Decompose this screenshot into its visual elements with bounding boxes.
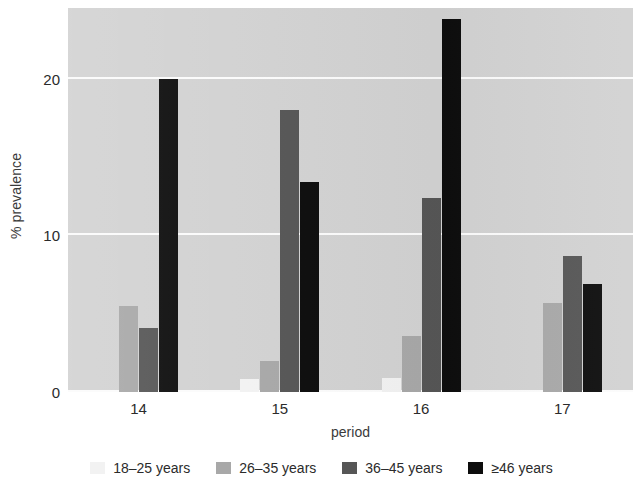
legend-label: 18–25 years: [113, 460, 190, 476]
bar-group: [209, 8, 350, 392]
bar: [159, 79, 178, 392]
legend-label: 36–45 years: [365, 460, 442, 476]
chart-legend: 18–25 years26–35 years36–45 years≥46 yea…: [0, 460, 643, 476]
legend-item[interactable]: ≥46 years: [468, 460, 552, 476]
x-axis-tick-label: 14: [130, 400, 147, 417]
bar: [442, 19, 461, 392]
bar: [139, 328, 158, 392]
bar-group: [68, 8, 209, 392]
bar: [280, 110, 299, 392]
legend-item[interactable]: 26–35 years: [216, 460, 316, 476]
x-axis-tick-label: 16: [413, 400, 430, 417]
bar: [119, 306, 138, 392]
bar: [240, 379, 259, 392]
y-axis-tick-label: 20: [20, 70, 68, 87]
bar: [422, 198, 441, 392]
x-axis-title: period: [68, 424, 633, 440]
x-axis-tick-label: 15: [272, 400, 289, 417]
legend-item[interactable]: 18–25 years: [90, 460, 190, 476]
bar: [260, 361, 279, 392]
legend-swatch-icon: [90, 462, 105, 474]
legend-label: ≥46 years: [491, 460, 552, 476]
legend-label: 26–35 years: [239, 460, 316, 476]
bar: [300, 182, 319, 392]
legend-swatch-icon: [468, 462, 483, 474]
legend-item[interactable]: 36–45 years: [342, 460, 442, 476]
bar: [382, 378, 401, 392]
y-axis-tick-labels: 01020: [20, 0, 68, 488]
bar-group: [492, 8, 633, 392]
plot-area: [68, 8, 633, 392]
bar-chart-figure: % prevalence 01020 14151617 period 18–25…: [0, 0, 643, 488]
y-axis-tick-label: 10: [20, 227, 68, 244]
legend-swatch-icon: [216, 462, 231, 474]
x-axis-tick-labels: 14151617: [68, 392, 633, 422]
legend-swatch-icon: [342, 462, 357, 474]
bar: [543, 303, 562, 392]
y-axis-tick-label: 0: [20, 384, 68, 401]
bar-group: [351, 8, 492, 392]
bar: [583, 284, 602, 392]
bar: [563, 256, 582, 392]
x-axis-tick-label: 17: [554, 400, 571, 417]
bar: [402, 336, 421, 392]
